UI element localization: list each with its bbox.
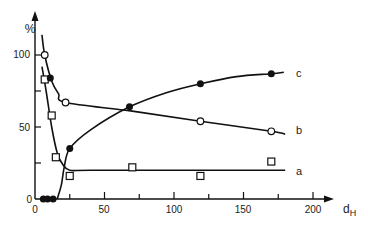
open-circle-marker <box>62 99 69 106</box>
open-square-marker <box>129 164 136 171</box>
chart: % 100 50 0 0 50 100 150 200 dH a b c <box>0 0 368 227</box>
open-circle-marker <box>197 118 204 125</box>
series-label-c: c <box>296 67 302 79</box>
y-axis-arrow-icon <box>32 11 39 21</box>
curve-b <box>42 35 285 134</box>
open-square-marker <box>268 158 275 165</box>
filled-circle-marker <box>197 80 204 87</box>
y-axis-label: % <box>25 22 36 36</box>
x-tick-label-50: 50 <box>98 204 110 215</box>
curve-a <box>42 67 285 171</box>
curves <box>42 35 285 199</box>
y-tick-label-50: 50 <box>19 122 31 133</box>
open-square-marker <box>66 172 73 179</box>
open-square-marker <box>52 154 59 161</box>
x-tick-label-100: 100 <box>166 204 183 215</box>
x-axis-arrow-icon <box>324 196 334 203</box>
axes <box>35 16 328 199</box>
curve-c <box>57 72 284 199</box>
filled-circle-marker <box>268 70 275 77</box>
open-square-marker <box>197 172 204 179</box>
filled-circle-marker <box>126 103 133 110</box>
filled-circle-marker <box>66 145 73 152</box>
y-tick-label-100: 100 <box>13 49 30 60</box>
series-label-a: a <box>296 165 303 177</box>
filled-circle-marker <box>47 75 54 82</box>
filled-circle-marker <box>50 196 57 203</box>
open-square-marker <box>48 112 55 119</box>
open-circle-marker <box>268 128 275 135</box>
x-axis-label: dH <box>343 202 356 218</box>
series-label-b: b <box>296 124 302 136</box>
x-tick-label-0: 0 <box>32 204 38 215</box>
open-circle-marker <box>41 52 48 59</box>
x-tick-label-200: 200 <box>305 204 322 215</box>
x-tick-label-150: 150 <box>235 204 252 215</box>
